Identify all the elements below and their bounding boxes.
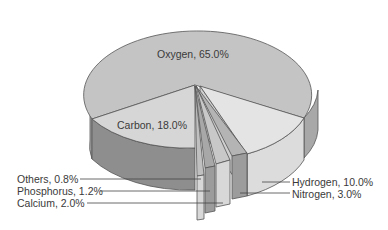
label-phosphorus: Phosphorus, 1.2% — [17, 185, 103, 197]
slice-phosphorus-side — [205, 166, 215, 213]
label-calcium: Calcium, 2.0% — [17, 197, 85, 209]
slice-others-side — [197, 175, 204, 220]
label-hydrogen: Hydrogen, 10.0% — [292, 176, 373, 188]
slice-nitrogen-side — [232, 153, 247, 199]
label-oxygen: Oxygen, 65.0% — [157, 48, 229, 60]
slice-calcium-side — [216, 160, 230, 207]
label-carbon: Carbon, 18.0% — [117, 119, 187, 131]
label-nitrogen: Nitrogen, 3.0% — [292, 188, 361, 200]
label-others: Others, 0.8% — [17, 173, 78, 185]
